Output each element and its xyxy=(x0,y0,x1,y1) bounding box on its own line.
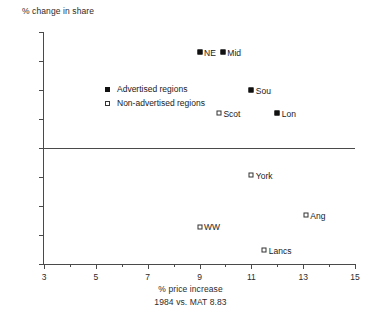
x-tick-mark xyxy=(355,264,356,269)
data-point: Mid xyxy=(220,50,225,55)
x-tick-mark xyxy=(200,264,201,269)
x-tick-label: 11 xyxy=(238,272,264,282)
legend-item: Advertised regions xyxy=(105,82,205,96)
x-tick-mark-minor xyxy=(174,264,175,267)
y-tick-mark xyxy=(39,235,44,236)
chart-legend: Advertised regionsNon-advertised regions xyxy=(105,82,205,110)
x-axis-title: % price increase xyxy=(0,284,381,294)
y-tick-mark xyxy=(39,177,44,178)
data-point: Scot xyxy=(216,111,221,116)
x-tick-mark xyxy=(96,264,97,269)
x-tick-label: 3 xyxy=(31,272,57,282)
x-tick-label: 13 xyxy=(290,272,316,282)
data-point-marker xyxy=(249,88,254,93)
data-point-label: York xyxy=(256,170,273,180)
data-point-marker xyxy=(197,224,202,229)
data-point-label: Scot xyxy=(223,108,240,118)
data-point-label: Mid xyxy=(227,47,241,57)
data-point: Lancs xyxy=(262,248,267,253)
plot-area: -20-15-10-505101520 3579111315 NEMidSouL… xyxy=(44,32,355,264)
x-tick-mark-minor xyxy=(225,264,226,267)
legend-label: Non-advertised regions xyxy=(117,98,205,108)
x-tick-mark-minor xyxy=(329,264,330,267)
legend-item: Non-advertised regions xyxy=(105,96,205,110)
y-tick-mark xyxy=(39,32,44,33)
data-point-marker xyxy=(275,111,280,116)
x-tick-label: 9 xyxy=(187,272,213,282)
data-point: WW xyxy=(197,224,202,229)
x-tick-label: 15 xyxy=(342,272,368,282)
data-point-label: Ang xyxy=(310,210,325,220)
data-point-marker xyxy=(220,50,225,55)
data-point-marker xyxy=(303,213,308,218)
x-tick-mark xyxy=(148,264,149,269)
data-point-label: WW xyxy=(204,222,220,232)
data-point-label: NE xyxy=(204,47,216,57)
x-tick-mark xyxy=(251,264,252,269)
x-tick-mark-minor xyxy=(70,264,71,267)
y-tick-mark xyxy=(39,61,44,62)
y-axis-title: % change in share xyxy=(22,6,94,16)
x-axis-subtitle: 1984 vs. MAT 8.83 xyxy=(0,297,381,307)
x-tick-label: 5 xyxy=(83,272,109,282)
x-tick-mark-minor xyxy=(122,264,123,267)
x-tick-mark xyxy=(303,264,304,269)
legend-label: Advertised regions xyxy=(117,84,187,94)
data-point: NE xyxy=(197,50,202,55)
zero-reference-line xyxy=(44,148,355,149)
data-point: Lon xyxy=(275,111,280,116)
y-tick-mark xyxy=(39,90,44,91)
data-point-label: Lancs xyxy=(269,245,292,255)
x-tick-mark xyxy=(44,264,45,269)
legend-swatch xyxy=(105,101,110,106)
x-tick-label: 7 xyxy=(135,272,161,282)
data-point-marker xyxy=(216,111,221,116)
y-tick-mark xyxy=(39,148,44,149)
data-point-label: Lon xyxy=(282,108,296,118)
y-tick-mark xyxy=(39,206,44,207)
data-point-marker xyxy=(262,248,267,253)
legend-swatch xyxy=(105,87,110,92)
scatter-chart: % change in share -20-15-10-505101520 35… xyxy=(0,0,381,322)
data-point-label: Sou xyxy=(256,85,271,95)
data-point: Sou xyxy=(249,88,254,93)
y-tick-mark xyxy=(39,119,44,120)
data-point-marker xyxy=(197,50,202,55)
x-tick-mark-minor xyxy=(277,264,278,267)
data-point: York xyxy=(249,173,254,178)
data-point-marker xyxy=(249,173,254,178)
data-point: Ang xyxy=(303,213,308,218)
